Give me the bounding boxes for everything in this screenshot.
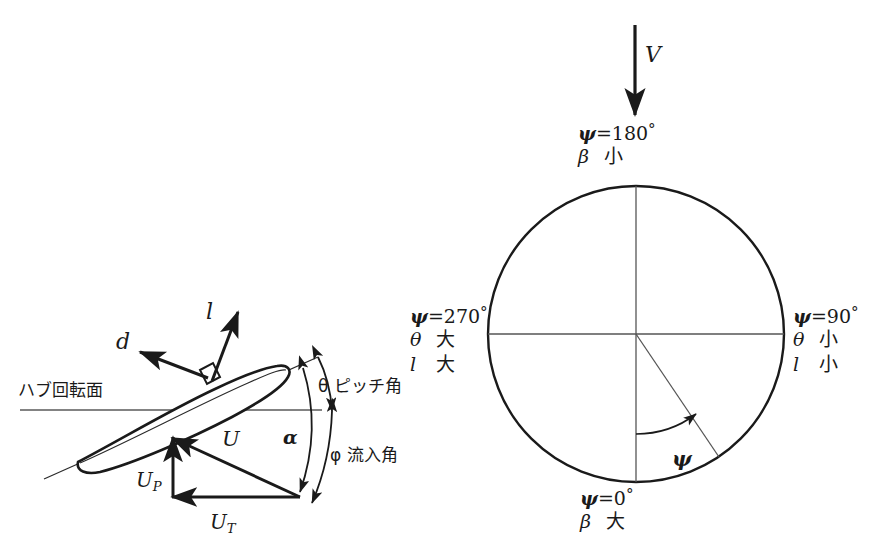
azimuth-90-value: 90 (827, 305, 851, 327)
azimuth-90-row-0-key: θ (793, 330, 819, 350)
azimuth-0-row-0-value: 大 (606, 512, 625, 532)
azimuth-90-row-1: l小 (793, 355, 859, 380)
azimuth-0-row-0: β大 (580, 512, 634, 537)
azimuth-270-row-1-key: l (410, 355, 436, 375)
azimuth-270-row-0-key: θ (410, 330, 436, 350)
azimuth-180-eq: = (596, 122, 612, 144)
drag-symbol-label: d (116, 330, 130, 353)
resultant-velocity-label: U (222, 428, 240, 450)
airfoil-outline (78, 366, 290, 473)
azimuth-180-unit: ° (648, 120, 656, 138)
UT-base: U (210, 510, 227, 534)
azimuth-90-row-1-value: 小 (819, 355, 838, 375)
lift-vector-arrow (212, 312, 238, 381)
UT-subscript: T (227, 521, 236, 536)
rotor-disk-group (488, 25, 784, 482)
azimuth-270-value: 270 (444, 305, 480, 327)
azimuth-station-90: ψ=90° θ小 l小 (793, 305, 859, 380)
lift-symbol-label: l (206, 300, 213, 323)
diagram-vector-layer (0, 0, 876, 554)
drag-vector-arrow (140, 352, 208, 378)
freestream-velocity-label: V (645, 43, 661, 66)
azimuth-0-row-0-key: β (580, 512, 606, 532)
hub-rotation-plane-label: ハブ回転面 (18, 382, 103, 400)
azimuth-0-unit: ° (626, 485, 634, 503)
azimuth-270-equation: ψ=270° (410, 305, 488, 330)
azimuth-90-row-0: θ小 (793, 330, 859, 355)
azimuth-0-equation: ψ=0° (580, 487, 634, 512)
UP-subscript: P (153, 479, 162, 494)
azimuth-180-row-0-key: β (578, 147, 604, 167)
azimuth-270-row-1: l大 (410, 355, 488, 380)
azimuth-180-row-0-value: 小 (604, 147, 623, 167)
azimuth-90-row-0-value: 小 (819, 330, 838, 350)
azimuth-90-symbol: ψ (793, 305, 811, 327)
azimuth-90-equation: ψ=90° (793, 305, 859, 330)
tangential-velocity-label: UT (210, 512, 236, 536)
azimuth-station-180: ψ=180° β小 (578, 122, 656, 172)
phi-inflow-angle-arc (312, 411, 332, 503)
azimuth-270-unit: ° (480, 303, 488, 321)
azimuth-180-equation: ψ=180° (578, 122, 656, 147)
alpha-angle-arc (300, 368, 312, 492)
azimuth-180-value: 180 (612, 122, 648, 144)
perpendicular-velocity-label: UP (136, 470, 162, 494)
inflow-angle-label: φ 流入角 (330, 447, 398, 465)
azimuth-270-row-0: θ大 (410, 330, 488, 355)
figure-canvas: ハブ回転面 d l θ ピッチ角 φ 流入角 α U UP UT V ψ ψ=1… (0, 0, 876, 554)
azimuth-station-270: ψ=270° θ大 l大 (410, 305, 488, 380)
azimuth-90-row-1-key: l (793, 355, 819, 375)
azimuth-90-unit: ° (851, 303, 859, 321)
blade-azimuth-radial-line (636, 334, 719, 457)
azimuth-270-eq: = (428, 305, 444, 327)
azimuth-0-eq: = (598, 487, 614, 509)
azimuth-270-row-0-value: 大 (436, 330, 455, 350)
azimuth-angle-arc (636, 414, 696, 434)
azimuth-0-symbol: ψ (580, 487, 598, 509)
angle-of-attack-label: α (283, 428, 298, 448)
UP-base: U (136, 468, 153, 492)
azimuth-90-eq: = (811, 305, 827, 327)
azimuth-270-symbol: ψ (410, 305, 428, 327)
azimuth-station-0: ψ=0° β大 (580, 487, 634, 537)
pitch-angle-label: θ ピッチ角 (318, 378, 402, 396)
azimuth-0-value: 0 (614, 487, 626, 509)
azimuth-arc-label: ψ (672, 448, 692, 470)
azimuth-180-row-0: β小 (578, 147, 656, 172)
azimuth-270-row-1-value: 大 (436, 355, 455, 375)
blade-section-group (20, 312, 332, 503)
azimuth-180-symbol: ψ (578, 122, 596, 144)
